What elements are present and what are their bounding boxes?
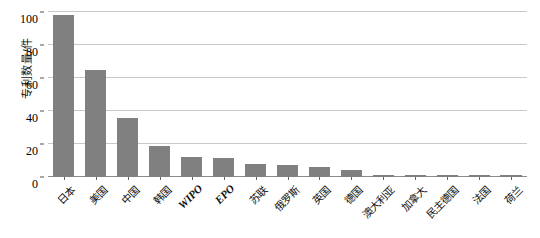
x-tick-mark xyxy=(224,177,225,180)
y-tick-mark-100 xyxy=(40,12,44,13)
x-tick-label: 美国 xyxy=(86,182,111,207)
x-tick-mark xyxy=(192,177,193,180)
x-tick-mark xyxy=(160,177,161,180)
x-tick-label: 荷兰 xyxy=(501,182,526,207)
x-tick-mark xyxy=(479,177,480,180)
plot-area xyxy=(48,12,527,177)
x-tick-label: 民主德国 xyxy=(423,182,462,221)
x-tick-label: EPO xyxy=(212,182,236,206)
x-tick-label: 韩国 xyxy=(150,182,175,207)
bar xyxy=(149,146,170,177)
x-tick-label: 英国 xyxy=(309,182,334,207)
bar xyxy=(309,167,330,177)
x-tick-mark xyxy=(383,177,384,180)
bar xyxy=(53,15,74,177)
x-tick-label: 中国 xyxy=(118,182,143,207)
y-tick-mark-40 xyxy=(40,111,44,112)
bar xyxy=(341,170,362,177)
bar xyxy=(181,157,202,177)
x-tick-label: 法国 xyxy=(469,182,494,207)
bar xyxy=(277,165,298,177)
y-tick-mark-60 xyxy=(40,78,44,79)
x-tick-mark xyxy=(128,177,129,180)
x-tick-mark xyxy=(511,177,512,180)
x-tick-mark xyxy=(288,177,289,180)
bar xyxy=(85,70,106,177)
x-tick-mark xyxy=(447,177,448,180)
x-tick-mark xyxy=(415,177,416,180)
x-axis-tick-labels: 日本美国中国韩国WIPOEPO苏联俄罗斯英国德国澳大利亚加拿大民主德国法国荷兰 xyxy=(48,177,527,237)
x-tick-label: 德国 xyxy=(341,182,366,207)
x-tick-mark xyxy=(319,177,320,180)
bar xyxy=(245,164,266,177)
x-tick-label: WIPO xyxy=(175,182,204,211)
y-tick-mark-80 xyxy=(40,45,44,46)
bar xyxy=(213,158,234,177)
y-axis-tick-labels: 020406080100 xyxy=(0,12,44,177)
x-tick-mark xyxy=(351,177,352,180)
x-tick-label: 澳大利亚 xyxy=(359,182,398,221)
y-tick-mark-20 xyxy=(40,144,44,145)
x-tick-mark xyxy=(256,177,257,180)
x-tick-label: 苏联 xyxy=(245,182,270,207)
x-tick-label: 俄罗斯 xyxy=(270,182,302,214)
bar-series xyxy=(48,12,527,177)
bar xyxy=(117,118,138,177)
x-tick-mark xyxy=(96,177,97,180)
x-tick-mark xyxy=(64,177,65,180)
y-tick-mark-0 xyxy=(40,177,44,178)
x-tick-label: 日本 xyxy=(54,182,79,207)
bar-chart-figure: 专利数量/件 020406080100 日本美国中国韩国WIPOEPO苏联俄罗斯… xyxy=(0,0,540,238)
